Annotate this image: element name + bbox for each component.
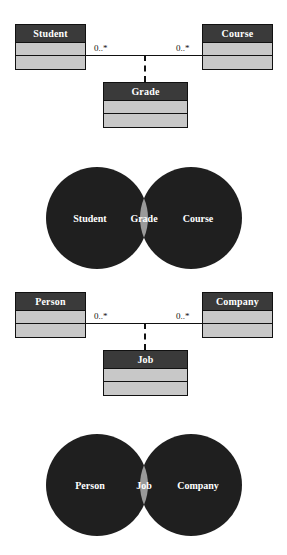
uml-operations-job (104, 382, 187, 395)
uml-attributes-job (104, 369, 187, 382)
uml-class-name-company: Company (203, 293, 272, 311)
venn-diagram-student-course: Student Grade Course (46, 167, 242, 269)
uml-class-job[interactable]: Job (103, 350, 188, 396)
venn-diagram-person-company: Person Job Company (46, 434, 242, 536)
diagram-canvas: Student Course Grade 0..* 0..* St (0, 0, 287, 555)
uml-class-course[interactable]: Course (202, 24, 273, 70)
uml-attributes-company (203, 311, 272, 324)
uml-class-name-student: Student (16, 25, 85, 43)
association-class-link-job (144, 323, 146, 350)
uml-class-name-person: Person (16, 293, 85, 311)
uml-attributes-student (16, 43, 85, 56)
uml-operations-company (203, 324, 272, 337)
multiplicity-person-end: 0..* (94, 311, 108, 321)
venn-label-course: Course (183, 213, 214, 224)
uml-operations-course (203, 56, 272, 69)
uml-class-student[interactable]: Student (15, 24, 86, 70)
multiplicity-student-end: 0..* (94, 43, 108, 53)
venn-label-job: Job (136, 480, 152, 491)
venn-svg-person-company: Person Job Company (46, 434, 242, 536)
uml-operations-grade (104, 114, 187, 127)
uml-attributes-course (203, 43, 272, 56)
uml-operations-person (16, 324, 85, 337)
multiplicity-course-end: 0..* (176, 43, 190, 53)
uml-class-person[interactable]: Person (15, 292, 86, 338)
association-class-link-grade (144, 55, 146, 82)
uml-class-company[interactable]: Company (202, 292, 273, 338)
venn-label-person: Person (75, 480, 105, 491)
venn-svg-student-course: Student Grade Course (46, 167, 242, 269)
uml-class-name-job: Job (104, 351, 187, 369)
venn-label-grade: Grade (130, 213, 158, 224)
venn-label-student: Student (73, 213, 107, 224)
uml-class-name-course: Course (203, 25, 272, 43)
uml-attributes-person (16, 311, 85, 324)
uml-class-grade[interactable]: Grade (103, 82, 188, 128)
uml-class-name-grade: Grade (104, 83, 187, 101)
uml-operations-student (16, 56, 85, 69)
uml-attributes-grade (104, 101, 187, 114)
venn-label-company: Company (177, 480, 219, 491)
multiplicity-company-end: 0..* (176, 311, 190, 321)
